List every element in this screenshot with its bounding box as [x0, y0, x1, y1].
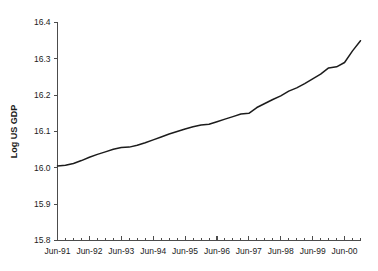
x-tick-label: Jun-97 [236, 246, 262, 256]
x-tick-label: Jun-99 [300, 246, 326, 256]
x-tick-label: Jun-96 [204, 246, 230, 256]
x-tick-label: Jun-98 [268, 246, 294, 256]
x-tick-label: Jun-91 [45, 246, 71, 256]
chart-container: 15.815.916.016.116.216.316.4 Jun-91Jun-9… [0, 0, 378, 271]
y-tick-label: 16.2 [34, 90, 51, 100]
y-tick-label: 16.3 [34, 54, 51, 64]
y-tick-label: 15.8 [34, 235, 51, 245]
y-tick-group [54, 23, 58, 241]
y-tick-label: 16.0 [34, 163, 51, 173]
y-tick-label-group: 15.815.916.016.116.216.316.4 [34, 17, 51, 245]
y-tick-label: 16.1 [34, 126, 51, 136]
x-tick-label: Jun-94 [140, 246, 166, 256]
data-series-group [58, 41, 361, 166]
line-chart: 15.815.916.016.116.216.316.4 Jun-91Jun-9… [0, 0, 378, 271]
axes-group [58, 23, 361, 241]
x-tick-label: Jun-95 [172, 246, 198, 256]
x-tick-label: Jun-00 [332, 246, 358, 256]
axis-lines [58, 23, 361, 241]
x-tick-label: Jun-93 [108, 246, 134, 256]
x-tick-label-group: Jun-91Jun-92Jun-93Jun-94Jun-95Jun-96Jun-… [45, 246, 358, 256]
x-tick-label: Jun-92 [76, 246, 102, 256]
x-tick-group [58, 236, 361, 241]
data-line [58, 41, 361, 166]
y-axis-title: Log US GDP [9, 105, 19, 159]
y-tick-label: 16.4 [34, 17, 51, 27]
y-axis-title-group: Log US GDP [9, 105, 19, 159]
y-tick-label: 15.9 [34, 199, 51, 209]
